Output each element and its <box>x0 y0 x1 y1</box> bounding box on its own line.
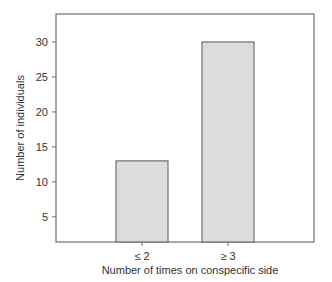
x-tick-label: ≥ 3 <box>220 250 235 262</box>
y-tick-label: 10 <box>36 176 48 188</box>
y-axis-title: Number of individuals <box>14 75 26 181</box>
y-tick-label: 20 <box>36 106 48 118</box>
y-tick-label: 15 <box>36 141 48 153</box>
bar-2 <box>202 42 254 242</box>
y-tick-label: 25 <box>36 71 48 83</box>
bar-chart: 51015202530 ≤ 2≥ 3 Number of individuals… <box>0 0 332 282</box>
x-axis-title: Number of times on conspecific side <box>102 264 279 276</box>
x-tick-label: ≤ 2 <box>134 250 149 262</box>
y-tick-label: 30 <box>36 36 48 48</box>
plot-frame <box>56 14 314 242</box>
y-tick-label: 5 <box>42 211 48 223</box>
bar-1 <box>116 161 168 242</box>
